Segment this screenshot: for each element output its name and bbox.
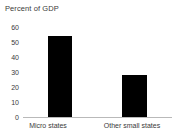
y-tick-label-20: 20	[11, 84, 19, 91]
bar-micro-states	[48, 36, 72, 117]
y-tick-label-50: 50	[11, 39, 19, 46]
y-tick-label-30: 30	[11, 69, 19, 76]
x-tick-label-micro-states: Micro states	[23, 122, 73, 130]
y-tick-label-40: 40	[11, 54, 19, 61]
x-axis-line	[23, 117, 172, 118]
y-tick-label-60: 60	[11, 24, 19, 31]
x-tick-label-other-small-states: Other small states	[93, 122, 171, 130]
y-tick-label-0: 0	[15, 114, 19, 121]
bar-other-small-states	[122, 75, 147, 117]
y-axis: 60 50 40 30 20 10 0	[0, 0, 23, 140]
bars-layer	[23, 27, 172, 117]
y-tick-label-10: 10	[11, 99, 19, 106]
bar-chart: Percent of GDP 60 50 40 30 20 10 0 Micro…	[0, 0, 175, 140]
